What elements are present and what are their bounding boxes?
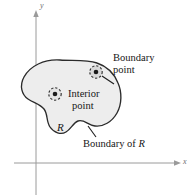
- x-axis-label: x: [183, 158, 187, 167]
- boundary-of-r-text: Boundary of: [83, 138, 138, 149]
- y-axis-arrowhead: [33, 10, 38, 17]
- interior-point-marker: [49, 88, 61, 100]
- interior-point-label-line1: Interior: [68, 88, 100, 99]
- boundary-of-r-leader-line: [88, 126, 96, 137]
- boundary-point-dot-icon: [94, 70, 99, 75]
- boundary-point-label-line1: Boundary: [113, 52, 154, 63]
- x-axis-arrowhead: [174, 160, 181, 165]
- interior-point-label-line2: point: [72, 100, 94, 111]
- figure-interior-boundary-points: y x Boundary point Interior point R Boun…: [0, 0, 192, 195]
- boundary-of-r-symbol: R: [138, 138, 144, 149]
- y-axis-label: y: [40, 2, 44, 11]
- interior-point-dot-icon: [53, 92, 58, 97]
- boundary-point-marker: [90, 66, 102, 78]
- boundary-point-label-line2: point: [113, 64, 135, 75]
- boundary-of-r-leader-group: [88, 126, 96, 137]
- region-label-r: R: [57, 122, 64, 134]
- boundary-of-r-label: Boundary of R: [83, 138, 145, 149]
